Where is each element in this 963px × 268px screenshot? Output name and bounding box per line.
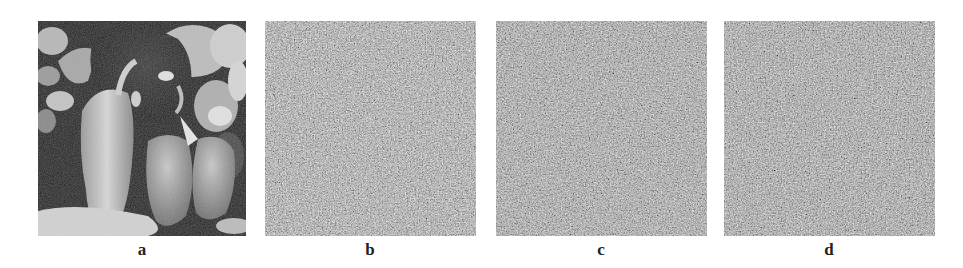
peppers-image bbox=[38, 21, 246, 236]
panel-b-label: b bbox=[350, 240, 390, 260]
panel-c-encrypted-image bbox=[496, 21, 707, 236]
panel-a-peppers-image bbox=[38, 21, 246, 236]
noise-image-b bbox=[265, 21, 476, 236]
noise-image-c bbox=[496, 21, 707, 236]
panel-c-label: c bbox=[581, 240, 621, 260]
panel-d-encrypted-image bbox=[724, 21, 935, 236]
panel-b-encrypted-image bbox=[265, 21, 476, 236]
panel-a-label: a bbox=[122, 240, 162, 260]
panel-d-label: d bbox=[809, 240, 849, 260]
noise-image-d bbox=[724, 21, 935, 236]
